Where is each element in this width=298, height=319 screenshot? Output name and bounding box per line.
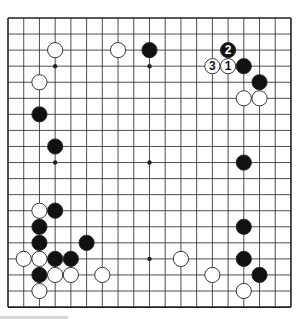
- black-stone: [32, 267, 47, 282]
- white-stone: [252, 91, 267, 106]
- black-stone: [236, 251, 251, 266]
- white-stone: [236, 283, 251, 298]
- white-stone: [236, 91, 251, 106]
- black-stone: [142, 43, 157, 58]
- black-stone: [32, 219, 47, 234]
- white-stone: [48, 43, 63, 58]
- white-stone: [205, 267, 220, 282]
- star-point: [147, 257, 151, 261]
- black-stone: [32, 235, 47, 250]
- black-stone: [48, 203, 63, 218]
- black-stone: [252, 75, 267, 90]
- move-number-label: 1: [225, 59, 232, 73]
- white-stone: 3: [205, 59, 220, 74]
- black-stone: [48, 251, 63, 266]
- black-stone: 2: [220, 43, 235, 58]
- move-number-label: 2: [225, 43, 232, 57]
- white-stone: [173, 251, 188, 266]
- star-point: [53, 64, 57, 68]
- white-stone: [95, 267, 110, 282]
- white-stone: [110, 43, 125, 58]
- white-stone: [16, 251, 31, 266]
- white-stone: [48, 267, 63, 282]
- white-stone: [32, 251, 47, 266]
- black-stone: [63, 251, 78, 266]
- stones-layer: 231: [16, 43, 267, 299]
- white-stone: [63, 267, 78, 282]
- white-stone: [32, 283, 47, 298]
- black-stone: [79, 235, 94, 250]
- black-stone: [236, 155, 251, 170]
- black-stone: [48, 139, 63, 154]
- star-point: [147, 160, 151, 164]
- white-stone: 1: [220, 59, 235, 74]
- white-stone: [32, 75, 47, 90]
- star-point: [147, 64, 151, 68]
- black-stone: [32, 107, 47, 122]
- black-stone: [236, 59, 251, 74]
- black-stone: [236, 219, 251, 234]
- black-stone: [252, 267, 267, 282]
- go-board-diagram: 231: [0, 0, 298, 319]
- white-stone: [32, 203, 47, 218]
- star-point: [53, 160, 57, 164]
- move-number-label: 3: [209, 59, 216, 73]
